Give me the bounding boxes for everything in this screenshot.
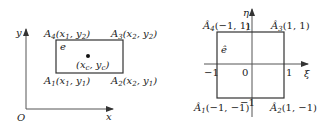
diagram-canvas: y x O e (xc, yc) A4(x1, y2) A3(x2, y2) A… (0, 0, 322, 126)
xi-axis-label: ξ (304, 68, 310, 79)
right-diagram: η ξ 0 ê −1 1 1 −1 Â4(−1, 1) Â3(1, 1) Â1(… (193, 7, 317, 117)
node-hatA4-label: Â4(−1, 1) (202, 20, 250, 33)
node-hatA2-label: Â2(1, −1) (269, 102, 317, 115)
x-axis-label: x (106, 111, 112, 122)
element-label: e (60, 41, 66, 52)
eta-axis-label: η (243, 7, 249, 18)
node-hatA3-label: Â3(1, 1) (270, 20, 310, 33)
node-A2-label: A2(x2, y1) (110, 75, 157, 88)
y-axis-label: y (15, 27, 22, 38)
left-diagram: y x O e (xc, yc) A4(x1, y2) A3(x2, y2) A… (15, 27, 157, 123)
reference-element-label: ê (221, 44, 227, 55)
node-hatA1-label: Â1(−1, −1) (193, 102, 249, 115)
center-label: (xc, yc) (76, 59, 109, 72)
origin-label: O (17, 112, 25, 123)
center-point (86, 54, 90, 58)
tick-xi-pos1: 1 (286, 67, 292, 78)
tick-xi-neg1: −1 (204, 67, 219, 78)
origin-label: 0 (242, 67, 248, 78)
node-A3-label: A3(x2, y2) (110, 28, 157, 41)
node-A1-label: A1(x1, y1) (43, 75, 90, 88)
reference-square (217, 32, 284, 98)
node-A4-label: A4(x1, y2) (43, 28, 90, 41)
